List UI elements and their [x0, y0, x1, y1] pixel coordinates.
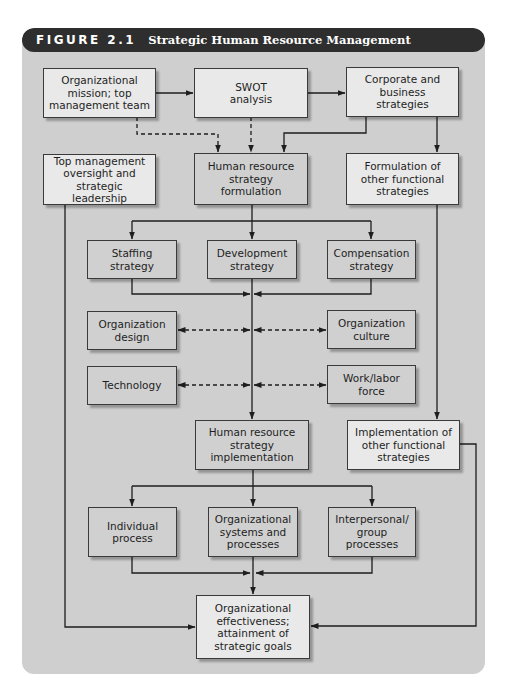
node-org-systems: Organizational systems and processes — [208, 507, 298, 557]
node-hr-formulation: Human resource strategy formulation — [194, 153, 308, 205]
edge-compensation-merge — [254, 279, 371, 294]
node-work-labor: Work/labor force — [327, 365, 416, 404]
node-other-implementation: Implementation of other functional strat… — [347, 420, 460, 470]
node-individual: Individual process — [88, 507, 177, 557]
node-development: Development strategy — [207, 240, 297, 279]
node-other-formulation: Formulation of other functional strategi… — [346, 153, 459, 205]
node-org-culture: Organization culture — [327, 310, 416, 349]
node-compensation: Compensation strategy — [327, 240, 416, 279]
edge-mission-hrform — [137, 117, 218, 152]
node-swot: SWOT analysis — [194, 68, 308, 118]
edge-interpersonal-merge — [256, 557, 372, 573]
node-staffing: Staffing strategy — [87, 240, 177, 279]
node-interpersonal: Interpersonal/ group processes — [328, 507, 416, 557]
node-corporate: Corporate and business strategies — [346, 67, 459, 117]
edge-individual-merge — [132, 557, 250, 573]
edge-corporate-hrform — [284, 117, 366, 152]
node-technology: Technology — [87, 366, 177, 405]
node-org-design: Organization design — [87, 311, 177, 350]
node-hr-implementation: Human resource strategy implementation — [195, 420, 309, 470]
node-mission: Organizational mission; top management t… — [43, 68, 156, 118]
edge-staffing-merge — [132, 279, 250, 294]
node-effectiveness: Organizational effectiveness; attainment… — [196, 595, 310, 659]
node-top-management: Top management oversight and strategic l… — [43, 154, 156, 205]
